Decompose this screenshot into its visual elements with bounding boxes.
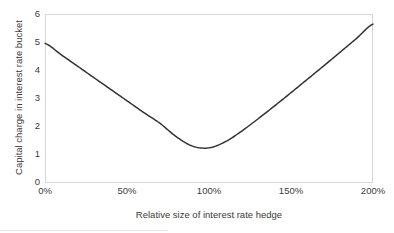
page-edge-artifact [0, 230, 168, 231]
x-tick-label: 200% [361, 186, 385, 196]
y-axis-title: Capital charge in interest rate bucket [13, 8, 24, 188]
x-axis-title: Relative size of interest rate hedge [45, 209, 373, 221]
y-tick-label: 1 [22, 149, 40, 159]
y-tick-label: 6 [22, 9, 40, 19]
x-axis-tick-labels: 0%50%100%150%200% [0, 186, 394, 200]
x-tick-label: 150% [279, 186, 303, 196]
y-tick-label: 5 [22, 37, 40, 47]
x-tick-label: 50% [117, 186, 136, 196]
x-tick-label: 0% [38, 186, 52, 196]
y-tick-label: 3 [22, 93, 40, 103]
data-series-line [45, 24, 373, 148]
chart-figure: 0123456 0%50%100%150%200% Capital charge… [0, 0, 394, 233]
y-tick-label: 2 [22, 121, 40, 131]
x-tick-label: 100% [197, 186, 221, 196]
y-tick-label: 4 [22, 65, 40, 75]
